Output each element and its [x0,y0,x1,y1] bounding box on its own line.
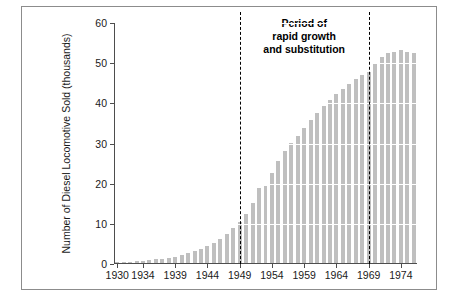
x-tick-mark [175,264,176,268]
x-tick-mark [143,264,144,268]
x-tick-mark [117,264,118,268]
x-tick-label: 1964 [325,270,348,281]
x-tick-label: 1939 [164,270,187,281]
x-tick-label: 1934 [131,270,154,281]
x-tick-label: 1944 [196,270,219,281]
x-tick-label: 1974 [389,270,412,281]
y-tick-label: 20 [95,178,107,189]
y-tick-label: 30 [95,138,107,149]
y-tick-label: 60 [95,18,107,29]
y-tick-label: 0 [101,259,107,270]
y-tick-label: 50 [95,58,107,69]
x-tick-label: 1954 [260,270,283,281]
x-tick-mark [336,264,337,268]
x-tick-label: 1930 [106,270,129,281]
x-tick-label: 1959 [292,270,315,281]
x-tick-mark [272,264,273,268]
x-tick-mark [401,264,402,268]
y-tick-mark [110,264,114,265]
x-tick-label: 1969 [357,270,380,281]
rapid-growth-start-line [240,12,241,264]
x-tick-mark [207,264,208,268]
x-tick-mark [369,264,370,268]
y-axis-title: Number of Diesel Locomotive Sold (thousa… [58,23,74,264]
y-tick-label: 10 [95,219,107,230]
vertical-marker-lines-layer [114,23,417,264]
x-tick-label: 1949 [228,270,251,281]
plot-area: 0102030405060 19301934193919441949195419… [114,23,417,264]
x-tick-mark [304,264,305,268]
rapid-growth-end-line [369,12,370,264]
x-tick-mark [240,264,241,268]
figure-frame: Number of Diesel Locomotive Sold (thousa… [21,6,437,290]
y-tick-label: 40 [95,98,107,109]
